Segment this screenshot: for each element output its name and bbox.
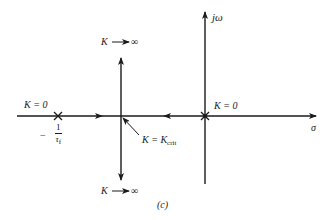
real-axis-label: σ: [311, 123, 316, 133]
breakaway-gain-prefix: K = K: [142, 134, 167, 145]
upper-asymptote-infinity: ∞: [131, 37, 138, 47]
tau-subscript: f: [59, 138, 61, 146]
origin-dot: [203, 114, 207, 118]
left-pole-location-fraction: 1 τf: [55, 123, 62, 144]
lower-asymptote-k: K: [101, 186, 108, 196]
kcrit-pointer: [123, 118, 139, 135]
lower-asymptote-infinity: ∞: [131, 186, 138, 196]
root-locus-diagram: jω σ K = 0 − 1 τf K = 0 K = Kcrit K ∞ K …: [0, 0, 333, 220]
fraction-denominator: τf: [55, 134, 61, 144]
figure-caption: (c): [157, 200, 168, 210]
upper-asymptote-k: K: [101, 37, 108, 47]
fraction-numerator: 1: [55, 123, 62, 134]
breakaway-gain-label: K = Kcrit: [142, 135, 176, 145]
breakaway-gain-subscript: crit: [167, 139, 176, 147]
imag-axis-label: jω: [212, 12, 223, 23]
left-pole-location-sign: −: [40, 131, 46, 141]
left-pole-gain-label: K = 0: [24, 100, 47, 110]
origin-pole-gain-label: K = 0: [214, 101, 237, 111]
locus-graphics: [0, 0, 333, 220]
